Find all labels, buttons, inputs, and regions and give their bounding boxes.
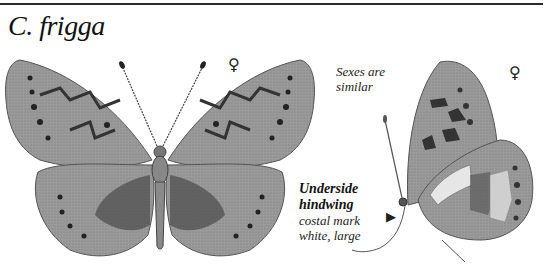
- pointer-triangle-icon: ▶: [386, 209, 396, 224]
- female-symbol-upperside: ♀: [228, 55, 240, 74]
- sexes-note-line-1: Sexes are: [336, 64, 385, 79]
- sexes-similar-note: Sexes are similar: [336, 64, 385, 94]
- underside-note-detail-1: costal mark: [299, 213, 361, 228]
- underside-note-heading-2: hindwing: [299, 197, 361, 213]
- underside-note-heading-1: Underside: [299, 181, 361, 197]
- butterfly-illustrations: [0, 0, 544, 268]
- underside-hindwing-note: Underside hindwing costal mark white, la…: [299, 181, 361, 243]
- sexes-note-line-2: similar: [336, 79, 385, 94]
- upperside-butterfly: [6, 60, 315, 256]
- female-symbol-underside: ♀: [509, 63, 521, 82]
- underside-note-detail-2: white, large: [299, 228, 361, 243]
